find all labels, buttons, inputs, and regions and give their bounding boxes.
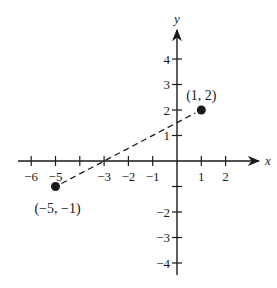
point-label: (−5, −1)	[34, 201, 80, 217]
x-tick-label: −1	[146, 169, 160, 184]
data-point	[51, 182, 60, 191]
point-label: (1, 2)	[186, 88, 217, 104]
y-tick-label: −3	[156, 230, 170, 245]
x-tick-label: 1	[198, 169, 205, 184]
y-tick-label: 2	[164, 103, 171, 118]
y-axis-label: y	[172, 11, 180, 26]
coordinate-plane: xy −6−5−3−2−112−4−3−21234 (−5, −1)(1, 2)	[0, 0, 277, 288]
x-axis-label: x	[264, 153, 271, 168]
y-tick-label: 1	[164, 128, 171, 143]
y-tick-label: 4	[164, 52, 171, 67]
y-tick-label: 3	[164, 77, 171, 92]
x-tick-label: −3	[97, 169, 111, 184]
x-tick-label: −5	[49, 169, 63, 184]
y-tick-label: −2	[156, 205, 170, 220]
data-points: (−5, −1)(1, 2)	[34, 88, 216, 217]
axes: xy	[18, 11, 271, 275]
data-point	[197, 106, 206, 115]
x-tick-label: −2	[121, 169, 135, 184]
x-tick-label: 2	[222, 169, 229, 184]
y-tick-label: −4	[156, 256, 170, 271]
x-tick-label: −6	[24, 169, 38, 184]
